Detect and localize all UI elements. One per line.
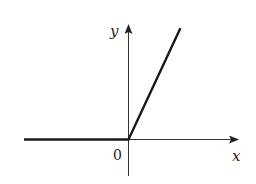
function-line-positive [129,29,181,140]
x-axis-label: x [232,147,241,165]
origin-label: 0 [113,147,122,163]
chart-canvas: y x 0 [0,0,256,184]
y-axis-label: y [109,22,119,40]
